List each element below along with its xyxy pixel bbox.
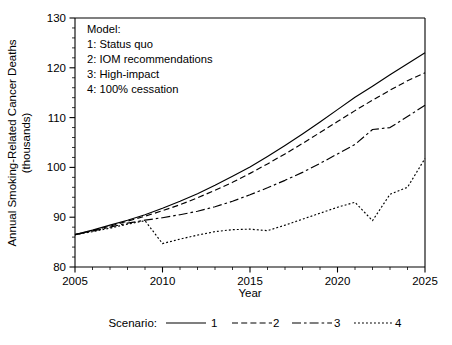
x-tick-label: 2025 (412, 275, 438, 287)
y-tick-label: 90 (53, 211, 66, 223)
line-chart-canvas: 8090100110120130 20052010201520202025 An… (0, 0, 452, 345)
y-tick-label: 80 (53, 261, 66, 273)
legend-title: Scenario: (108, 317, 157, 329)
model-item-1: 1: Status quo (87, 38, 153, 50)
x-tick-label: 2020 (325, 275, 351, 287)
y-axis-title-line1: Annual Smoking-Related Cancer Deaths (6, 39, 18, 246)
chart-figure: 8090100110120130 20052010201520202025 An… (0, 0, 452, 345)
y-tick-label: 120 (47, 62, 66, 74)
y-tick-label: 110 (48, 112, 66, 124)
model-item-2: 2: IOM recommendations (87, 53, 213, 65)
x-axis-title: Year (238, 287, 261, 299)
legend-label-4: 4 (395, 317, 402, 329)
chart-background (0, 0, 452, 345)
y-axis-title-line2: (thousands) (20, 112, 32, 173)
legend-label-1: 1 (211, 317, 217, 329)
model-item-4: 4: 100% cessation (87, 83, 178, 95)
model-item-3: 3: High-impact (87, 68, 160, 80)
x-tick-label: 2015 (237, 275, 263, 287)
x-tick-label: 2005 (62, 275, 88, 287)
y-tick-label: 130 (47, 12, 66, 24)
legend-label-3: 3 (334, 317, 340, 329)
y-tick-label: 100 (47, 161, 66, 173)
model-heading: Model: (87, 23, 121, 35)
x-tick-label: 2010 (150, 275, 176, 287)
legend-label-2: 2 (273, 317, 279, 329)
